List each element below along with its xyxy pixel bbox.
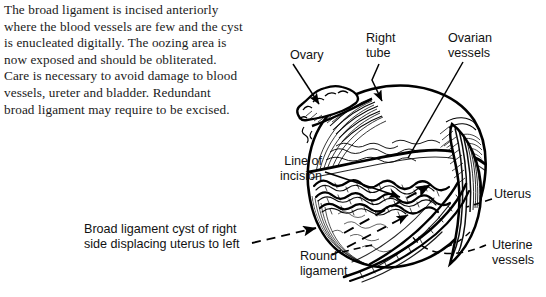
label-ovarian-vessels: Ovarian vessels	[448, 31, 492, 60]
label-line-of-incision: Line of incision	[250, 154, 322, 183]
label-ovary: Ovary	[290, 48, 324, 63]
label-uterus: Uterus	[494, 187, 531, 202]
label-uterine-vessels: Uterine vessels	[492, 238, 534, 267]
label-right-tube: Right tube	[366, 31, 395, 60]
ovary-leader	[293, 64, 319, 104]
figure-page: The broad ligament is incised anteriorly…	[0, 0, 546, 297]
caption-leader	[252, 228, 316, 243]
figure-caption: Broad ligament cyst of right side displa…	[84, 222, 259, 251]
label-round-ligament: Round ligament	[300, 249, 348, 278]
